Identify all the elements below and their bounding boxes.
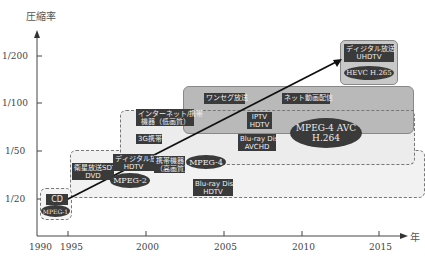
label-line: DVD: [74, 172, 112, 180]
label-line: HDTV: [115, 163, 152, 171]
ellipse-mpeg2: MPEG-2: [110, 173, 150, 188]
label-line: AVCHD: [240, 143, 274, 151]
label-line: 携帯機器: [156, 157, 183, 165]
label-mobile-hq: 携帯機器 （高画質）: [154, 156, 185, 173]
label-line: IPTV: [249, 113, 270, 121]
label-digital-uhdtv: ディジタル放送 UHDTV: [344, 44, 394, 62]
label-line: MPEG-4 AVC: [296, 123, 356, 133]
label-digital-hdtv: ディジタル放送 HDTV: [113, 154, 154, 171]
label-cd: CD: [46, 194, 68, 205]
label-3g-mobile: 3G携帯: [136, 134, 162, 144]
label-bluray-avchd: Blu-ray Disc AVCHD: [238, 134, 276, 151]
label-net-video: ネット動画配信: [282, 93, 330, 104]
label-iptv-hdtv: IPTV HDTV: [247, 112, 272, 129]
label-line: 衛星放送SDTV: [74, 164, 112, 172]
label-line: Blu-ray Disc: [240, 135, 274, 143]
label-line: インターネット/携帯: [138, 110, 192, 118]
label-line: 機器（低画質）: [138, 118, 192, 126]
ellipse-mpeg4: MPEG-4: [186, 155, 226, 169]
ellipse-hevc: HEVC H.265: [344, 66, 394, 80]
label-oneseg: ワンセグ放送: [204, 93, 245, 104]
ellipse-mpeg1: MPEG-1: [41, 205, 70, 217]
label-satellite-sdtv: 衛星放送SDTV DVD: [72, 163, 114, 180]
label-line: HDTV: [249, 121, 270, 129]
label-line: （高画質）: [156, 165, 183, 173]
label-line: H.264: [312, 133, 340, 143]
label-internet-mobile: インターネット/携帯 機器（低画質）: [136, 109, 194, 126]
label-line: ディジタル放送: [115, 155, 152, 163]
ellipse-mpeg4-avc: MPEG-4 AVC H.264: [290, 118, 362, 148]
label-bluray-hdtv: Blu-ray Disc HDTV: [193, 179, 233, 196]
label-line: ディジタル放送: [346, 45, 392, 53]
label-line: UHDTV: [346, 53, 392, 61]
label-line: HDTV: [195, 188, 231, 196]
label-line: Blu-ray Disc: [195, 180, 231, 188]
